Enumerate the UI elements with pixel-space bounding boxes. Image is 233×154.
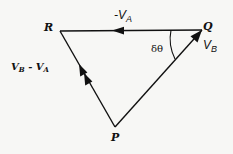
label-vb-sub: B	[211, 44, 217, 54]
angle-arc	[170, 30, 175, 59]
label-diff-v1: V	[11, 61, 19, 72]
label-diff-sub2: A	[44, 65, 49, 74]
label-neg-va-sub: A	[126, 14, 132, 24]
label-angle: δθ	[151, 44, 163, 54]
vertex-label-q: Q	[203, 21, 213, 32]
vertex-label-r: R	[44, 22, 53, 33]
label-diff-mid: - V	[25, 61, 44, 72]
arrowhead-neg-va-icon	[112, 27, 124, 35]
label-vb-minus-va: VB - VA	[11, 62, 49, 73]
arrowhead-diff-2-icon	[84, 73, 92, 86]
label-neg-va-main: -V	[114, 8, 126, 22]
edge-neg-va	[60, 30, 202, 31]
arrowhead-diff-1-icon	[79, 64, 87, 77]
label-vb: VB	[203, 39, 217, 54]
vertex-label-p: P	[111, 132, 119, 143]
label-neg-va: -VA	[114, 9, 132, 24]
label-vb-main: V	[203, 38, 211, 52]
